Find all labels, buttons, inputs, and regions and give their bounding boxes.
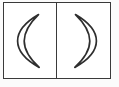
figure-container: left-panel right-panel <box>0 0 119 87</box>
crescent-moon-opening-right-icon <box>15 12 45 70</box>
right-panel[interactable]: right-panel <box>57 3 110 78</box>
left-panel[interactable]: left-panel <box>4 3 57 78</box>
two-panel-frame: left-panel right-panel <box>3 2 111 79</box>
crescent-moon-opening-left-icon <box>69 12 99 70</box>
